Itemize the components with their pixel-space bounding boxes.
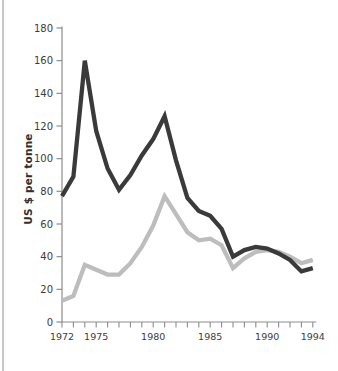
axis-frame	[62, 27, 316, 323]
x-tick-label: 1972	[50, 331, 74, 342]
y-tick-label: 120	[34, 121, 53, 132]
dark-line	[62, 61, 313, 272]
x-tick-label: 1980	[141, 331, 165, 342]
y-tick-label: 160	[34, 55, 53, 66]
light-line	[62, 196, 313, 301]
chart-page: US $ per tonne 0204060801001201401601801…	[0, 0, 338, 371]
y-tick-label: 40	[40, 251, 53, 262]
y-tick-label: 60	[40, 219, 53, 230]
x-tick-label: 1985	[198, 331, 222, 342]
price-line-chart: 0204060801001201401601801972197519801985…	[0, 0, 338, 371]
y-tick-label: 0	[47, 317, 53, 328]
y-tick-label: 100	[34, 153, 53, 164]
x-tick-label: 1975	[84, 331, 108, 342]
y-tick-label: 140	[34, 88, 53, 99]
x-tick-label: 1990	[255, 331, 279, 342]
y-tick-label: 180	[34, 23, 53, 34]
y-tick-label: 80	[40, 186, 53, 197]
x-tick-label: 1994	[301, 331, 325, 342]
y-tick-label: 20	[40, 284, 53, 295]
